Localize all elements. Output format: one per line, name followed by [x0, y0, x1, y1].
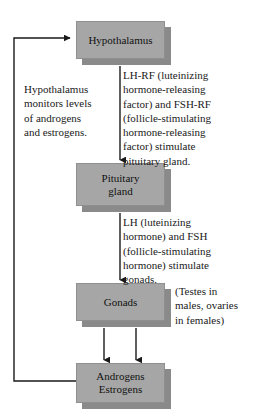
node-pituitary: Pituitary gland	[76, 163, 165, 206]
node-androgens: Androgens Estrogens	[76, 363, 165, 403]
annotation-gonads-parenthetical: (Testes in males, ovaries in females)	[175, 284, 271, 327]
annotation-feedback-monitoring: Hypothalamus monitors levels of androgen…	[24, 82, 122, 139]
annotation-releasing-factors: LH-RF (luteinizing hormone-releasing fac…	[123, 68, 271, 168]
node-pituitary-label: Pituitary gland	[100, 172, 142, 198]
node-hypothalamus-label: Hypothalamus	[86, 34, 154, 47]
annotation-gonadotropins: LH (luteinizing hormone) and FSH (follic…	[123, 215, 271, 286]
node-hypothalamus: Hypothalamus	[76, 21, 165, 59]
node-gonads: Gonads	[76, 283, 165, 321]
node-gonads-label: Gonads	[102, 296, 140, 309]
node-androgens-label: Androgens Estrogens	[94, 370, 146, 396]
endocrine-feedback-diagram: Hypothalamus Pituitary gland Gonads Andr…	[0, 0, 274, 419]
